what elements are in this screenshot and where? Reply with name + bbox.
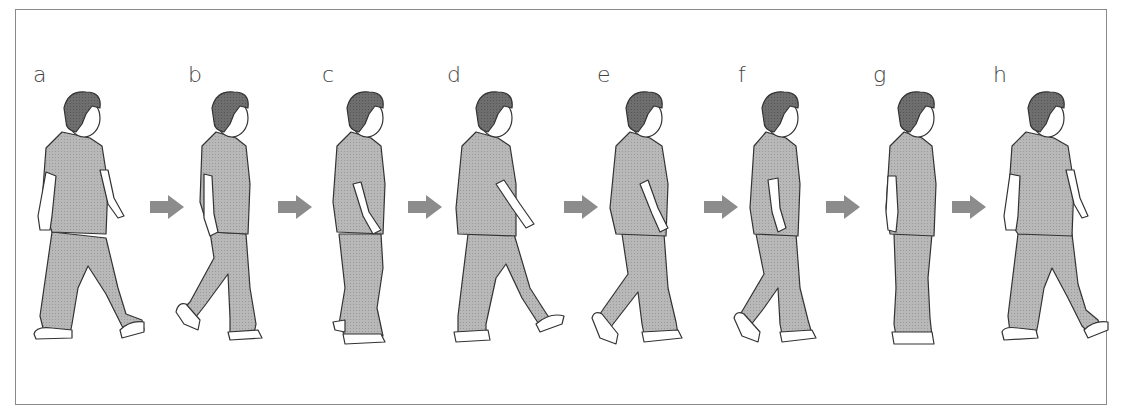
walking-figure-h (990, 88, 1121, 350)
right-arrow-icon (704, 195, 738, 219)
walking-figure-d (430, 88, 580, 350)
stage-label-c: c (322, 62, 334, 88)
stage-label-b: b (188, 62, 202, 88)
stage-label-h: h (993, 62, 1007, 88)
stage-label-e: e (597, 62, 611, 88)
right-arrow-icon (826, 195, 860, 219)
walking-figure-f (720, 88, 870, 350)
stage-label-d: d (447, 62, 461, 88)
stage-label-a: a (33, 62, 46, 88)
walking-figure-a (22, 88, 172, 350)
right-arrow-icon (408, 195, 442, 219)
right-arrow-icon (564, 195, 598, 219)
right-arrow-icon (278, 195, 312, 219)
stage-label-f: f (738, 62, 746, 88)
stage-label-g: g (873, 62, 886, 88)
walking-figure-b (170, 88, 320, 350)
walking-figure-g (858, 88, 1008, 350)
right-arrow-icon (952, 195, 986, 219)
right-arrow-icon (150, 195, 184, 219)
walking-figure-e (580, 88, 730, 350)
